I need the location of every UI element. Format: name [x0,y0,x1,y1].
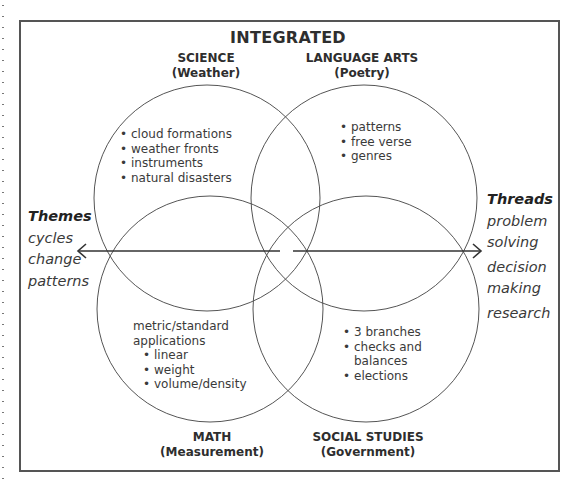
science-list: cloud formations weather fronts instrume… [120,127,232,185]
social-studies-heading: SOCIAL STUDIES (Government) [312,430,423,460]
list-item: cloud formations [120,127,232,142]
math-heading: MATH (Measurement) [160,430,264,460]
themes-arrow [78,244,280,258]
social-studies-circle [253,196,479,422]
language-arts-circle [251,85,477,311]
list-item: 3 branches [343,325,422,340]
list-item: free verse [340,135,412,150]
science-topic: (Weather) [172,66,240,81]
thread-line: solving [487,232,553,254]
language-arts-topic: (Poetry) [306,66,419,81]
list-item: elections [343,369,422,384]
diagram-title: INTEGRATED [230,28,346,47]
theme-item: cycles [28,228,92,250]
math-intro-line: applications [133,334,247,349]
threads-block: Threads problem solving decision making … [487,189,553,324]
list-item: volume/density [133,377,247,392]
language-arts-list: patterns free verse genres [340,120,412,164]
theme-item: change [28,249,92,271]
social-studies-topic: (Government) [312,445,423,460]
math-topic: (Measurement) [160,445,264,460]
science-heading: SCIENCE (Weather) [172,51,240,81]
themes-heading: Themes [28,206,92,228]
list-item: instruments [120,156,232,171]
language-arts-subject: LANGUAGE ARTS [306,51,419,66]
threads-heading: Threads [487,189,553,211]
list-item: linear [133,348,247,363]
list-item: weight [133,363,247,378]
thread-line: making [487,278,553,300]
threads-arrow [293,244,481,258]
social-studies-subject: SOCIAL STUDIES [312,430,423,445]
math-subject: MATH [160,430,264,445]
list-item-continuation: balances [343,354,422,369]
list-item: checks and [343,340,422,355]
math-intro-line: metric/standard [133,319,247,334]
themes-block: Themes cycles change patterns [28,206,92,292]
list-item: natural disasters [120,171,232,186]
language-arts-heading: LANGUAGE ARTS (Poetry) [306,51,419,81]
list-item: weather fronts [120,142,232,157]
thread-line: research [487,303,553,325]
social-studies-list: 3 branches checks and balances elections [343,325,422,383]
list-item: genres [340,149,412,164]
science-circle [94,85,320,311]
thread-line: problem [487,211,553,233]
math-list: metric/standard applications linear weig… [133,319,247,392]
list-item: patterns [340,120,412,135]
science-subject: SCIENCE [172,51,240,66]
thread-line: decision [487,257,553,279]
theme-item: patterns [28,271,92,293]
